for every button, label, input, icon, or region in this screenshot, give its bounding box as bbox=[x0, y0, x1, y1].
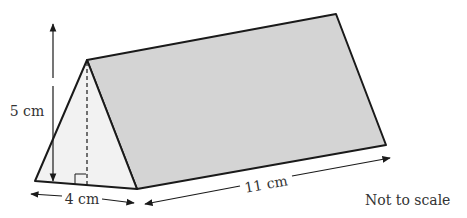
height-label: 5 cm bbox=[10, 103, 44, 119]
prism-slant-face bbox=[87, 14, 386, 189]
base-arrow-left bbox=[31, 194, 62, 196]
prism-svg: 5 cm 4 cm 11 cm Not to scale bbox=[0, 0, 467, 218]
length-label: 11 cm bbox=[243, 172, 289, 195]
length-arrow-right bbox=[292, 158, 390, 176]
prism-diagram: 5 cm 4 cm 11 cm Not to scale bbox=[0, 0, 467, 218]
not-to-scale-note: Not to scale bbox=[365, 192, 450, 208]
base-label: 4 cm bbox=[65, 191, 99, 207]
base-arrow-right bbox=[102, 199, 134, 203]
length-arrow-left bbox=[145, 186, 240, 204]
